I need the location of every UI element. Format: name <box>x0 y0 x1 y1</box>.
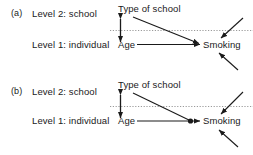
panel-a-level2-label: Level 2: school <box>32 8 97 19</box>
panel-b-node-age: Age <box>118 115 135 126</box>
residual-arrow-lower <box>219 53 238 70</box>
panel-b-level2-label: Level 2: school <box>32 86 97 97</box>
residual-arrow-upper <box>221 18 243 38</box>
panel-a-node-smoking: Smoking <box>203 39 241 50</box>
panel-b-node-type-of-school: Type of school <box>118 79 181 90</box>
panel-b-tag: (b) <box>11 86 22 97</box>
panel-b: (b) Level 2: school Level 1: individual … <box>0 78 253 155</box>
panel-a-node-age: Age <box>118 39 135 50</box>
panel-a: (a) Level 2: school Level 1: individual … <box>0 0 253 77</box>
interaction-node-dot <box>188 118 193 123</box>
panel-b-node-smoking: Smoking <box>203 115 241 126</box>
panel-a-node-type-of-school: Type of school <box>118 3 181 14</box>
panel-a-tag: (a) <box>11 8 22 19</box>
panel-b-level1-label: Level 1: individual <box>32 115 109 126</box>
residual-arrow-upper <box>221 92 243 114</box>
multilevel-path-diagram-figure: (a) Level 2: school Level 1: individual … <box>0 0 253 155</box>
residual-arrow-lower <box>219 130 238 147</box>
panel-a-level1-label: Level 1: individual <box>32 39 109 50</box>
